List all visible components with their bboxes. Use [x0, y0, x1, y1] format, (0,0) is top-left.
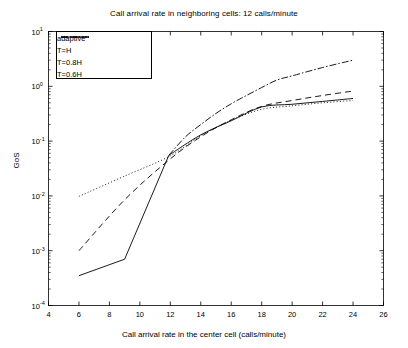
svg-text:101: 101 — [32, 26, 43, 36]
svg-text:10-2: 10-2 — [32, 191, 45, 201]
legend-label-t-h: T=H — [57, 46, 71, 56]
legend-item-t-06h: T=0.6H — [57, 69, 151, 80]
svg-text:26: 26 — [379, 310, 387, 319]
legend-label-t-08h: T=0.8H — [57, 58, 82, 68]
svg-text:10: 10 — [136, 310, 144, 319]
legend-item-t-08h: T=0.8H — [57, 57, 151, 68]
svg-text:6: 6 — [77, 310, 81, 319]
svg-text:4: 4 — [46, 310, 50, 319]
y-axis-label: GoS — [12, 131, 21, 191]
svg-text:10-4: 10-4 — [32, 300, 45, 310]
series-adaptive — [79, 98, 353, 275]
legend-label-t-06h: T=0.6H — [57, 70, 82, 80]
svg-text:20: 20 — [288, 310, 296, 319]
svg-text:24: 24 — [349, 310, 357, 319]
legend-swatch-dotted — [60, 32, 90, 42]
chart-legend: adaptive T=H T=0.8H T=0.6H — [56, 31, 152, 79]
figure-root: Call arrival rate in neighboring cells: … — [0, 0, 408, 348]
svg-text:16: 16 — [227, 310, 235, 319]
legend-item-t-h: T=H — [57, 45, 151, 56]
x-axis-label: Call arrival rate in the center cell (ca… — [0, 330, 408, 339]
series-t-0-6h — [79, 101, 353, 197]
svg-text:18: 18 — [258, 310, 266, 319]
svg-text:14: 14 — [197, 310, 205, 319]
svg-text:10-3: 10-3 — [32, 246, 45, 256]
svg-text:12: 12 — [166, 310, 174, 319]
series-t-h — [169, 60, 353, 155]
svg-text:100: 100 — [32, 81, 43, 91]
series-t-0-8h — [79, 91, 353, 251]
svg-text:22: 22 — [318, 310, 326, 319]
svg-text:10-1: 10-1 — [32, 136, 45, 146]
svg-text:8: 8 — [107, 310, 111, 319]
chart-figure: Call arrival rate in neighboring cells: … — [0, 0, 408, 348]
